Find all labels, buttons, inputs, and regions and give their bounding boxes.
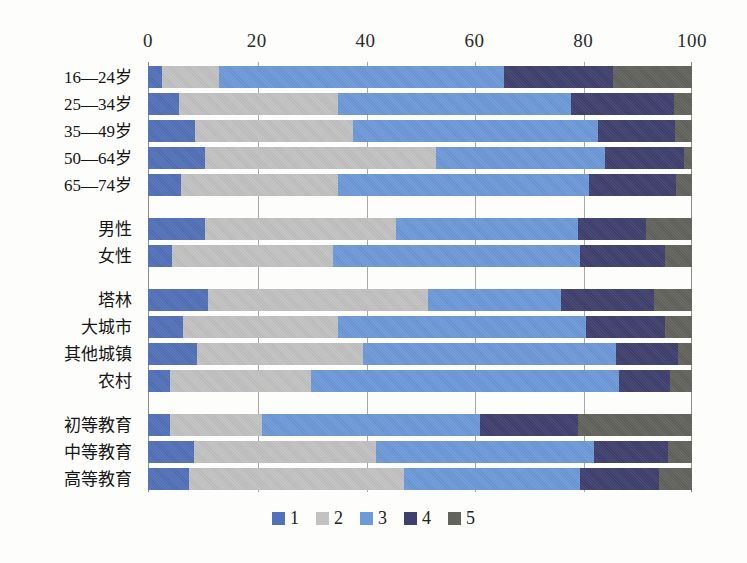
bar-segment-series-2[interactable] xyxy=(162,66,219,88)
bar-row[interactable] xyxy=(148,147,692,169)
legend-item-1[interactable]: 1 xyxy=(272,508,299,529)
legend-item-3[interactable]: 3 xyxy=(360,508,387,529)
category-label-35—49岁: 35—49岁 xyxy=(64,123,132,140)
bar-segment-series-1[interactable] xyxy=(148,343,197,365)
bar-segment-series-3[interactable] xyxy=(311,370,618,392)
bar-segment-series-4[interactable] xyxy=(504,66,613,88)
bar-segment-series-2[interactable] xyxy=(205,218,395,240)
bar-segment-series-1[interactable] xyxy=(148,174,181,196)
legend-label-3: 3 xyxy=(378,508,387,529)
category-label-其他城镇: 其他城镇 xyxy=(64,346,132,363)
bar-segment-series-1[interactable] xyxy=(148,120,195,142)
bar-segment-series-3[interactable] xyxy=(396,218,578,240)
bar-segment-series-2[interactable] xyxy=(189,468,404,490)
bar-row[interactable] xyxy=(148,414,692,436)
bar-segment-series-5[interactable] xyxy=(646,218,692,240)
bar-segment-series-1[interactable] xyxy=(148,468,189,490)
bar-segment-series-4[interactable] xyxy=(561,289,653,311)
bar-segment-series-5[interactable] xyxy=(578,414,692,436)
bar-segment-series-2[interactable] xyxy=(197,343,363,365)
bar-segment-series-5[interactable] xyxy=(676,174,692,196)
category-label-初等教育: 初等教育 xyxy=(64,417,132,434)
bar-segment-series-3[interactable] xyxy=(219,66,505,88)
bar-row[interactable] xyxy=(148,468,692,490)
bar-segment-series-2[interactable] xyxy=(183,316,338,338)
bar-segment-series-3[interactable] xyxy=(338,174,588,196)
bar-row[interactable] xyxy=(148,441,692,463)
bar-segment-series-4[interactable] xyxy=(589,174,676,196)
legend-item-5[interactable]: 5 xyxy=(448,508,475,529)
legend-swatch-2 xyxy=(316,512,329,525)
stacked-bar-chart: 020406080100 16—24岁25—34岁35—49岁50—64岁65—… xyxy=(0,0,747,563)
bar-segment-series-1[interactable] xyxy=(148,218,205,240)
bar-segment-series-1[interactable] xyxy=(148,414,170,436)
bar-row[interactable] xyxy=(148,93,692,115)
bar-row[interactable] xyxy=(148,245,692,267)
bar-segment-series-3[interactable] xyxy=(338,316,586,338)
x-tick-label-20: 20 xyxy=(247,30,267,52)
x-tick-label-40: 40 xyxy=(356,30,376,52)
bar-segment-series-2[interactable] xyxy=(170,370,311,392)
bar-segment-series-5[interactable] xyxy=(654,289,692,311)
bar-segment-series-3[interactable] xyxy=(376,441,594,463)
bar-segment-series-4[interactable] xyxy=(605,147,684,169)
bar-segment-series-5[interactable] xyxy=(665,245,692,267)
bar-segment-series-5[interactable] xyxy=(668,441,692,463)
bar-segment-series-3[interactable] xyxy=(428,289,561,311)
bar-segment-series-5[interactable] xyxy=(674,93,692,115)
bar-segment-series-4[interactable] xyxy=(594,441,667,463)
bar-row[interactable] xyxy=(148,289,692,311)
category-label-16—24岁: 16—24岁 xyxy=(64,69,132,86)
bar-segment-series-3[interactable] xyxy=(353,120,598,142)
bar-row[interactable] xyxy=(148,218,692,240)
bar-segment-series-4[interactable] xyxy=(578,218,646,240)
bar-segment-series-5[interactable] xyxy=(665,316,692,338)
bar-row[interactable] xyxy=(148,370,692,392)
bar-segment-series-1[interactable] xyxy=(148,93,179,115)
bar-segment-series-5[interactable] xyxy=(670,370,692,392)
bar-segment-series-2[interactable] xyxy=(179,93,338,115)
bar-segment-series-2[interactable] xyxy=(181,174,339,196)
bar-segment-series-2[interactable] xyxy=(170,414,262,436)
bar-segment-series-4[interactable] xyxy=(480,414,578,436)
bar-segment-series-5[interactable] xyxy=(678,343,692,365)
bar-segment-series-2[interactable] xyxy=(195,120,353,142)
bar-segment-series-5[interactable] xyxy=(659,468,692,490)
bar-segment-series-4[interactable] xyxy=(616,343,679,365)
legend-item-4[interactable]: 4 xyxy=(404,508,431,529)
bar-segment-series-1[interactable] xyxy=(148,441,194,463)
bar-segment-series-3[interactable] xyxy=(404,468,581,490)
bar-segment-series-4[interactable] xyxy=(619,370,671,392)
bar-segment-series-3[interactable] xyxy=(338,93,572,115)
bar-segment-series-3[interactable] xyxy=(436,147,605,169)
bar-segment-series-5[interactable] xyxy=(675,120,692,142)
bar-segment-series-2[interactable] xyxy=(205,147,436,169)
bar-segment-series-5[interactable] xyxy=(684,147,692,169)
legend-swatch-1 xyxy=(272,512,285,525)
bar-segment-series-1[interactable] xyxy=(148,316,183,338)
bar-row[interactable] xyxy=(148,174,692,196)
bar-segment-series-4[interactable] xyxy=(580,245,664,267)
bar-segment-series-3[interactable] xyxy=(262,414,480,436)
bar-segment-series-1[interactable] xyxy=(148,147,205,169)
bar-segment-series-4[interactable] xyxy=(571,93,674,115)
bar-segment-series-1[interactable] xyxy=(148,66,162,88)
bar-row[interactable] xyxy=(148,120,692,142)
bar-segment-series-2[interactable] xyxy=(194,441,376,463)
bar-segment-series-3[interactable] xyxy=(333,245,581,267)
bar-row[interactable] xyxy=(148,66,692,88)
bar-segment-series-1[interactable] xyxy=(148,289,208,311)
legend-item-2[interactable]: 2 xyxy=(316,508,343,529)
bar-segment-series-2[interactable] xyxy=(172,245,332,267)
bar-segment-series-5[interactable] xyxy=(613,66,692,88)
bar-segment-series-1[interactable] xyxy=(148,245,172,267)
bar-segment-series-1[interactable] xyxy=(148,370,170,392)
bar-segment-series-4[interactable] xyxy=(580,468,659,490)
bar-row[interactable] xyxy=(148,343,692,365)
bar-segment-series-4[interactable] xyxy=(598,120,675,142)
x-tick-label-80: 80 xyxy=(573,30,593,52)
bar-segment-series-4[interactable] xyxy=(586,316,665,338)
bar-segment-series-3[interactable] xyxy=(363,343,616,365)
bar-row[interactable] xyxy=(148,316,692,338)
bar-segment-series-2[interactable] xyxy=(208,289,428,311)
